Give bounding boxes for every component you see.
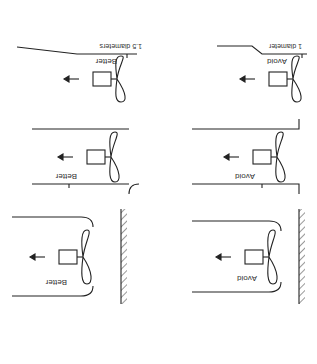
row-middle: [32, 119, 299, 194]
label-better: Better: [45, 278, 67, 287]
label-avoid: Avoid: [235, 172, 255, 181]
wall-hatch: [299, 209, 305, 304]
fan-icon: [59, 230, 91, 284]
label-better: Better: [95, 57, 117, 66]
panel-avoid-duct: [192, 119, 299, 194]
panel-better-wall: [12, 209, 127, 304]
rotated-diagram: Avoid Better 1 diameter 1.5 diameters Av…: [0, 0, 317, 364]
panel-better-duct: [32, 129, 139, 194]
panel-avoid-wall: [192, 209, 305, 304]
panel-better-transition: [17, 47, 137, 102]
dimension-label: 1 diameter: [268, 43, 302, 50]
label-better: Better: [55, 172, 77, 181]
fan-installation-diagram: Avoid Better 1 diameter 1.5 diameters Av…: [0, 0, 317, 364]
label-avoid: Avoid: [237, 274, 257, 283]
row-bottom: [17, 46, 307, 102]
diagram-root: Avoid Better 1 diameter 1.5 diameters Av…: [0, 0, 317, 364]
label-avoid: Avoid: [267, 57, 287, 66]
wall-hatch: [121, 209, 127, 304]
panel-avoid-transition: [217, 46, 307, 102]
dimension-label: 1.5 diameters: [99, 43, 142, 50]
